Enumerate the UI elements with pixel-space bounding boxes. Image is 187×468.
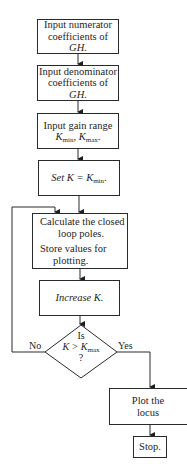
input-gain-range-box: Input gain range Kmin, Kmax. [37,113,119,149]
node-text: locus [137,407,159,419]
node-text: Increase K. [55,292,103,304]
node-text: Input numerator [44,19,112,31]
node-text: Set K = Kmin. [51,172,106,184]
calculate-poles-box: Calculate the closed loop poles. Store v… [32,213,128,269]
set-k-box: Set K = Kmin. [38,160,120,196]
node-text: loop poles. [40,228,104,240]
node-text: Input gain range [44,120,113,132]
node-text: Store values for [40,243,106,255]
node-text: Calculate the closed [40,216,125,228]
node-text: GH. [69,89,87,101]
node-text: Input denominator [39,66,117,78]
node-text: Plot the [132,395,164,407]
decision-text: Is K > Kmax ? [55,330,107,363]
node-text: GH. [69,42,87,54]
plot-locus-box: Plot the locus [109,388,187,425]
no-label: No [29,340,41,351]
node-text: Stop. [139,441,161,453]
input-numerator-box: Input numerator coefficients of GH. [37,19,119,54]
node-text: plotting. [40,255,88,267]
stop-box: Stop. [133,436,167,458]
increase-k-box: Increase K. [39,280,120,316]
node-text: Kmin, Kmax. [56,131,101,143]
yes-label: Yes [118,340,133,351]
input-denominator-box: Input denominator coefficients of GH. [37,65,119,101]
node-text: coefficients of [48,77,108,89]
node-text: coefficients of [48,31,108,43]
